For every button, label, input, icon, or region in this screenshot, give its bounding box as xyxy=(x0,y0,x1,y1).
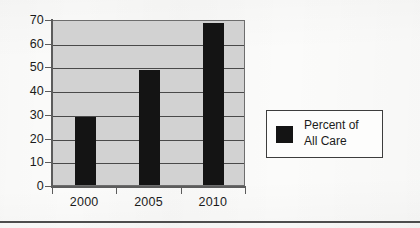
y-axis-labels: 706050403020100 xyxy=(8,0,44,215)
x-axis-line xyxy=(51,186,246,188)
bar-2000 xyxy=(75,117,96,185)
y-tick-label-20: 20 xyxy=(14,133,44,146)
y-tick-label-60: 60 xyxy=(14,38,44,51)
y-tick-60 xyxy=(45,44,52,45)
y-tick-label-0: 0 xyxy=(14,180,44,193)
y-tick-label-70: 70 xyxy=(14,14,44,27)
y-tick-label-50: 50 xyxy=(14,61,44,74)
y-tick-40 xyxy=(45,91,52,92)
chart-legend: Percent of All Care xyxy=(266,110,383,158)
x-tick-2 xyxy=(181,187,182,194)
legend-label-percent-of-all-care: Percent of All Care xyxy=(304,118,359,149)
y-tick-label-30: 30 xyxy=(14,109,44,122)
x-tick-label-2005: 2005 xyxy=(119,196,179,209)
x-tick-3 xyxy=(245,187,246,194)
y-tick-20 xyxy=(45,139,52,140)
y-tick-50 xyxy=(45,67,52,68)
bar-2010 xyxy=(203,23,224,185)
y-tick-70 xyxy=(45,20,52,21)
bar-chart: 706050403020100 200020052010 Percent of … xyxy=(0,0,420,215)
y-tick-label-10: 10 xyxy=(14,156,44,169)
bars-layer xyxy=(53,21,244,185)
x-tick-label-2000: 2000 xyxy=(54,196,114,209)
y-tick-10 xyxy=(45,162,52,163)
y-tick-30 xyxy=(45,115,52,116)
y-tick-label-40: 40 xyxy=(14,85,44,98)
plot-area xyxy=(52,20,245,186)
bar-2005 xyxy=(139,70,160,185)
page-divider-rule xyxy=(0,221,420,223)
legend-swatch-percent-of-all-care xyxy=(276,126,293,143)
x-tick-label-2010: 2010 xyxy=(183,196,243,209)
x-tick-1 xyxy=(116,187,117,194)
chart-screenshot: 706050403020100 200020052010 Percent of … xyxy=(0,0,420,228)
x-tick-0 xyxy=(52,187,53,194)
